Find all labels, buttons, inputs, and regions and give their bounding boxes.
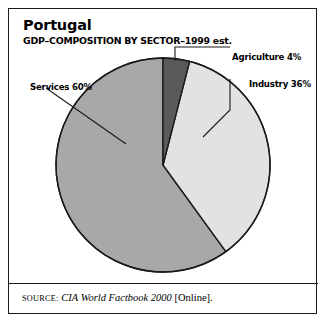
slice-label-agriculture: Agriculture 4% (232, 52, 301, 62)
slice-label-industry: Industry 36% (249, 79, 311, 89)
source-kicker: SOURCE: (22, 294, 59, 303)
source-suffix: [Online]. (174, 292, 212, 303)
page-title: Portugal (23, 17, 232, 33)
source-line: SOURCE: CIA World Factbook 2000 [Online]… (22, 292, 213, 303)
chart-frame: Portugal GDP–COMPOSITION BY SECTOR–1999 … (8, 8, 317, 314)
page-subtitle: GDP–COMPOSITION BY SECTOR–1999 est. (23, 35, 232, 47)
source-divider (9, 283, 318, 284)
leader-line-agriculture (175, 47, 230, 61)
slice-label-services: Services 60% (30, 82, 92, 92)
source-work-title: CIA World Factbook 2000 (61, 292, 172, 303)
heading-block: Portugal GDP–COMPOSITION BY SECTOR–1999 … (23, 17, 232, 47)
